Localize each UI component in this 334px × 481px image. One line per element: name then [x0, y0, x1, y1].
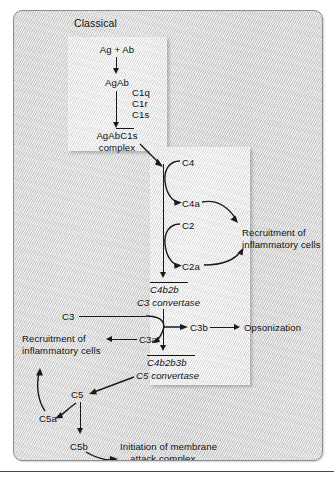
node-c2: C2 [182, 220, 194, 231]
panel-label-classical: Classical [74, 18, 117, 29]
arrow-c3-lead [79, 316, 146, 317]
edge-c5a-to-recruit [38, 373, 45, 411]
node-c4b2b3b: C4b2b3b [147, 357, 187, 368]
arrow-c3b-opsonization-shaft [210, 327, 236, 328]
arrow-c3a-recruit-shaft [112, 339, 137, 340]
node-c5-convertase: C5 convertase [136, 370, 199, 381]
arrow-c3b-opsonization-head [234, 324, 240, 330]
arrow-agab-head [113, 68, 119, 74]
node-c3: C3 [62, 311, 74, 322]
node-c4b2b: C4b2b [150, 284, 179, 295]
node-c5a: C5a [39, 413, 57, 424]
spine-c4-c2 [163, 164, 164, 274]
overbar-agabc1s [116, 128, 134, 129]
edge-c5a-to-recruit-head [36, 368, 43, 376]
overbar-c4b2b3b [147, 355, 195, 356]
outcome-opsonization: Opsonization [244, 322, 301, 333]
node-c4: C4 [182, 157, 194, 168]
bottom-rule [0, 471, 334, 472]
arrow-c5-c5b-head [77, 428, 83, 434]
outcome-mac-line1: Initiation of membrane [120, 441, 217, 452]
node-ag-ab: Ag + Ab [79, 44, 155, 55]
outcome-recruit-right-line1: Recruitment of [242, 227, 306, 238]
outer-panel: Classical Ag + Ab AgAb C1q C1r C1s AgAbC… [13, 10, 323, 461]
edge-c5b-to-mac-head [110, 456, 119, 461]
node-c3b: C3b [190, 322, 208, 333]
complement-pathway-figure: Classical Ag + Ab AgAb C1q C1r C1s AgAbC… [0, 0, 334, 481]
node-c3-convertase: C3 convertase [137, 297, 200, 308]
edge-c5convertase-to-c5-head [89, 389, 97, 395]
node-agabc1s: AgAbC1s [79, 130, 155, 141]
node-c1r: C1r [132, 98, 148, 109]
spine-c3-to-c5-convertase [163, 309, 164, 347]
arrow-c5-c5b-shaft [80, 402, 81, 430]
overbar-c4b2b [150, 282, 188, 283]
outcome-recruit-right-line2: inflammatory cells [242, 239, 321, 250]
node-c3a: C3a [139, 334, 157, 345]
arrow-c3a-recruit-head [106, 336, 112, 342]
spine-c4-c2-head [160, 272, 166, 278]
outcome-recruit-left-line2: inflammatory cells [22, 345, 101, 356]
node-c2a: C2a [182, 261, 200, 272]
arrow-agabc1s-shaft [116, 91, 117, 124]
edge-c5b-to-mac [86, 452, 112, 460]
node-c5: C5 [71, 389, 83, 400]
node-agabc1s-complex: complex [79, 142, 155, 153]
node-c1s: C1s [132, 109, 149, 120]
node-c5b: C5b [70, 441, 88, 452]
spine-c3-to-c5-convertase-head [160, 345, 166, 351]
outcome-recruit-left-line1: Recruitment of [22, 333, 86, 344]
outcome-mac-line2: attack complex [130, 453, 195, 461]
node-c4a: C4a [182, 198, 200, 209]
edge-c5-to-c5a [60, 403, 76, 416]
node-c1q: C1q [132, 87, 150, 98]
edge-c5convertase-to-c5 [94, 377, 134, 392]
